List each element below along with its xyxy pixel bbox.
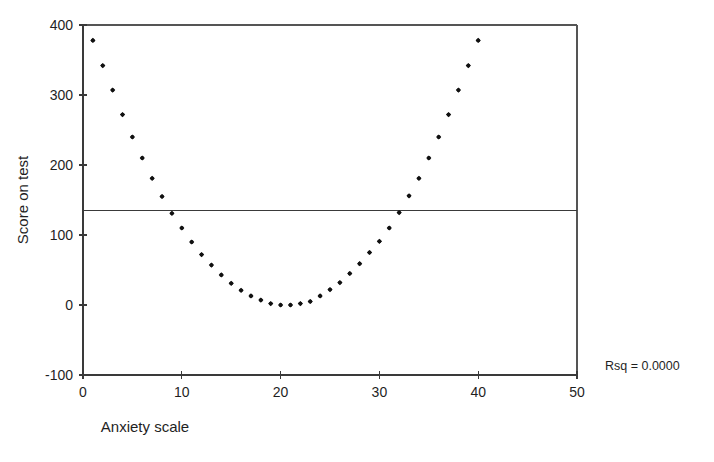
data-point-core bbox=[140, 156, 144, 160]
data-point-core bbox=[229, 281, 233, 285]
scatter-points-group bbox=[90, 38, 481, 308]
x-axis-title: Anxiety scale bbox=[101, 418, 189, 435]
data-point-core bbox=[417, 176, 421, 180]
data-point-core bbox=[466, 64, 470, 68]
data-point-core bbox=[219, 273, 223, 277]
data-point-core bbox=[328, 288, 332, 292]
data-point-core bbox=[160, 195, 164, 199]
data-point-core bbox=[378, 239, 382, 243]
data-point-core bbox=[368, 251, 372, 255]
data-point-core bbox=[200, 253, 204, 257]
x-tick-label-10: 10 bbox=[174, 384, 190, 400]
data-point-core bbox=[101, 64, 105, 68]
data-point-core bbox=[170, 211, 174, 215]
x-tick-label-50: 50 bbox=[569, 384, 585, 400]
data-point-core bbox=[279, 303, 283, 307]
data-point-core bbox=[210, 263, 214, 267]
data-point-core bbox=[447, 113, 451, 117]
data-point-core bbox=[131, 135, 135, 139]
data-point-core bbox=[318, 294, 322, 298]
x-tick-label-20: 20 bbox=[273, 384, 289, 400]
x-tick-label-0: 0 bbox=[79, 384, 87, 400]
y-tick-label-300: 300 bbox=[50, 87, 74, 103]
data-point-core bbox=[358, 262, 362, 266]
rsq-annotation: Rsq = 0.0000 bbox=[605, 359, 680, 373]
x-tick-label-30: 30 bbox=[372, 384, 388, 400]
data-point-core bbox=[91, 39, 95, 43]
data-point-core bbox=[249, 294, 253, 298]
data-point-core bbox=[269, 302, 273, 306]
y-tick-label-400: 400 bbox=[50, 17, 74, 33]
data-point-core bbox=[180, 226, 184, 230]
data-point-core bbox=[239, 288, 243, 292]
data-point-core bbox=[397, 211, 401, 215]
y-tick-label-0: 0 bbox=[65, 297, 73, 313]
data-point-core bbox=[289, 303, 293, 307]
data-point-core bbox=[298, 302, 302, 306]
data-point-core bbox=[457, 88, 461, 92]
y-tick-label-neg100: -100 bbox=[45, 367, 73, 383]
data-point-core bbox=[190, 240, 194, 244]
y-tick-label-200: 200 bbox=[50, 157, 74, 173]
y-tick-label-100: 100 bbox=[50, 227, 74, 243]
data-point-core bbox=[437, 135, 441, 139]
data-point-core bbox=[427, 156, 431, 160]
data-point-core bbox=[387, 226, 391, 230]
data-point-core bbox=[259, 298, 263, 302]
chart-figure: 400 300 200 100 0 -100 0 10 20 30 40 50 … bbox=[0, 0, 714, 462]
x-tick-label-40: 40 bbox=[470, 384, 486, 400]
y-axis-title: Score on test bbox=[14, 155, 31, 244]
data-point-core bbox=[150, 176, 154, 180]
data-point-core bbox=[308, 300, 312, 304]
data-point-core bbox=[407, 194, 411, 198]
data-point-core bbox=[111, 88, 115, 92]
data-point-core bbox=[121, 113, 125, 117]
data-point-core bbox=[348, 272, 352, 276]
data-point-core bbox=[476, 39, 480, 43]
data-point-core bbox=[338, 281, 342, 285]
scatterplot-canvas: 400 300 200 100 0 -100 0 10 20 30 40 50 … bbox=[0, 0, 714, 462]
